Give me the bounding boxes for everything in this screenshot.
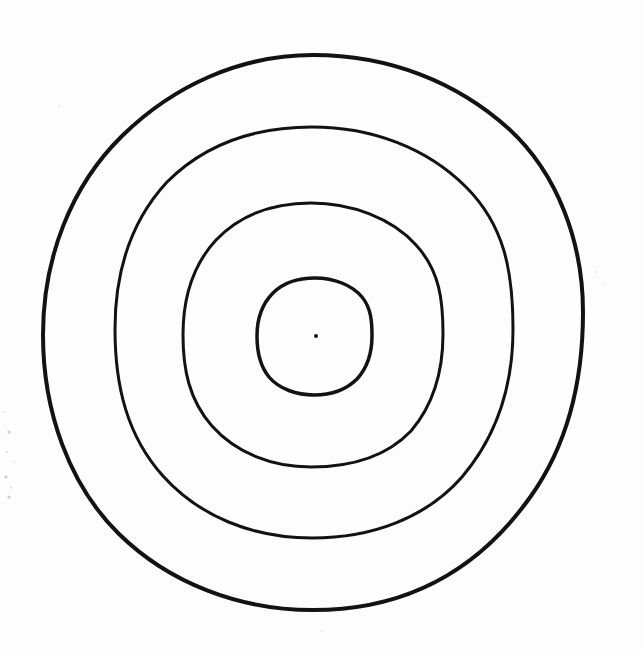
center-dot <box>314 334 318 338</box>
concentric-circles-figure: Concentric Circles Diagram Hand-drawn bu… <box>0 0 642 654</box>
paper-background <box>0 0 642 654</box>
drawing-canvas: Concentric Circles Diagram Hand-drawn bu… <box>0 0 642 654</box>
